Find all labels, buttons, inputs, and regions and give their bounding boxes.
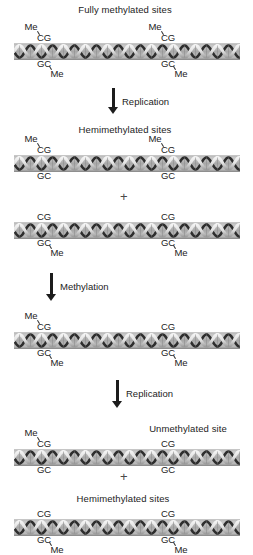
- strand-remethylated-site2-cg-label: CG: [161, 322, 175, 332]
- methylation-maintenance-diagram: Fully methylated sitesHemimethylated sit…: [0, 0, 253, 555]
- strand-unmethylated-site2-gc-label: GC: [161, 465, 175, 475]
- strand-fully-methylated-site1-methyl-bottom: Me: [50, 69, 63, 79]
- arrow-down-icon: [112, 401, 122, 408]
- arrow-replication-2-shaft: [116, 380, 119, 401]
- dna-helix-graphic: [14, 156, 240, 171]
- strand-hemimethylated-2-site2-cg-label: CG: [161, 509, 175, 519]
- strand-fully-methylated-site1-methyl-top: Me: [24, 22, 37, 32]
- dna-helix-graphic: [14, 450, 240, 465]
- plus-sign-1: +: [120, 190, 128, 203]
- strand-fully-methylated-site2-methyl-bottom: Me: [174, 69, 187, 79]
- arrow-replication-1: [108, 88, 119, 114]
- dna-helix-graphic: [14, 520, 240, 535]
- caption-unmethylated-text: Unmethylated site: [149, 423, 227, 434]
- arrow-methylation-shaft: [50, 273, 53, 294]
- arrow-methylation: [46, 273, 57, 301]
- strand-hemimethylated-top-1-site1-methyl-top: Me: [24, 134, 37, 144]
- strand-unmethylated-site2-cg-label: CG: [161, 439, 175, 449]
- strand-hemimethylated-bottom-1-site1-cg-label: CG: [37, 212, 51, 222]
- strand-unmethylated-site1-gc-label: GC: [37, 465, 51, 475]
- strand-remethylated-site1-methyl-top: Me: [24, 311, 37, 321]
- arrow-down-icon: [108, 107, 118, 114]
- strand-fully-methylated-site2-methyl-top: Me: [148, 22, 161, 32]
- strand-hemimethylated-top-1-site2-gc-label: GC: [161, 171, 175, 181]
- strand-remethylated-site1-methyl-bottom: Me: [50, 358, 63, 368]
- strand-hemimethylated-2-site1-cg-label: CG: [37, 509, 51, 519]
- strand-unmethylated-site1-methyl-top: Me: [24, 428, 37, 438]
- strand-hemimethylated-top-1-site2-methyl-top: Me: [148, 134, 161, 144]
- strand-hemimethylated-bottom-1-site1-methyl-bottom: Me: [50, 248, 63, 258]
- dna-helix-graphic: [14, 223, 240, 238]
- plus-sign-2: +: [120, 470, 128, 483]
- dna-helix-graphic: [14, 44, 240, 59]
- arrow-replication-1-shaft: [112, 88, 115, 107]
- dna-helix-graphic: [14, 333, 240, 348]
- strand-hemimethylated-bottom-1-site2-cg-label: CG: [161, 212, 175, 222]
- arrow-replication-2: [112, 380, 123, 408]
- strand-remethylated-site2-methyl-bottom: Me: [174, 358, 187, 368]
- strand-hemimethylated-bottom-1-site2-methyl-bottom: Me: [174, 248, 187, 258]
- arrow-down-icon: [46, 294, 56, 301]
- strand-hemimethylated-top-1-site1-gc-label: GC: [37, 171, 51, 181]
- arrow-methylation-label: Methylation: [60, 281, 109, 292]
- arrow-replication-1-label: Replication: [122, 96, 169, 107]
- caption-hemimethylated-2-text: Hemimethylated sites: [77, 493, 170, 504]
- arrow-replication-2-label: Replication: [126, 388, 173, 399]
- caption-fully-methylated-text: Fully methylated sites: [78, 4, 172, 15]
- strand-hemimethylated-2-site2-methyl-bottom: Me: [174, 545, 187, 555]
- strand-hemimethylated-2-site1-methyl-bottom: Me: [50, 545, 63, 555]
